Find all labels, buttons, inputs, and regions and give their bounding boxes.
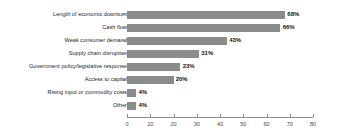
x-axis-tick-label: 60: [257, 120, 277, 128]
category-label: Access to capital: [0, 75, 127, 84]
x-axis-line: [127, 117, 313, 118]
horizontal-bar-chart: Length of economic downturn 68% Cash flo…: [0, 0, 339, 140]
category-tick-icon: [122, 92, 126, 93]
x-axis-tick: [267, 114, 268, 117]
bar-value-label: 66%: [283, 23, 295, 32]
category-tick-icon: [122, 14, 126, 15]
category-tick-icon: [122, 66, 126, 67]
x-axis-tick-label: 40: [210, 120, 230, 128]
category-tick-icon: [122, 105, 126, 106]
x-axis-tick-label: 80: [303, 120, 323, 128]
category-label: Weak consumer demand: [0, 36, 127, 45]
chart-row: Cash flow 66%: [0, 23, 339, 36]
bar: [127, 76, 174, 84]
bar: [127, 37, 227, 45]
category-label: Supply chain disruption: [0, 49, 127, 58]
x-axis-tick-label: 50: [233, 120, 253, 128]
bar-value-label: 68%: [287, 10, 299, 19]
chart-row: Other 4%: [0, 101, 339, 114]
x-axis-tick: [313, 114, 314, 117]
x-axis-tick-label: 10: [140, 120, 160, 128]
x-axis-tick: [220, 114, 221, 117]
x-axis-tick-label: 30: [187, 120, 207, 128]
x-axis-tick: [243, 114, 244, 117]
bar: [127, 50, 199, 58]
bar: [127, 102, 136, 110]
category-tick-icon: [122, 53, 126, 54]
bar: [127, 63, 180, 71]
bar-value-label: 43%: [229, 36, 241, 45]
x-axis-tick: [197, 114, 198, 117]
category-tick-icon: [122, 79, 126, 80]
bar-value-label: 20%: [176, 75, 188, 84]
bar: [127, 11, 285, 19]
bar: [127, 24, 280, 32]
chart-row: Weak consumer demand 43%: [0, 36, 339, 49]
category-tick-icon: [122, 27, 126, 28]
bar-value-label: 31%: [201, 49, 213, 58]
chart-row: Government policy/legislative response 2…: [0, 62, 339, 75]
category-label: Rising input or commodity costs: [0, 88, 127, 97]
chart-row: Length of economic downturn 68%: [0, 10, 339, 23]
chart-row: Access to capital 20%: [0, 75, 339, 88]
bar-value-label: 4%: [139, 101, 148, 110]
x-axis-tick: [127, 114, 128, 117]
x-axis-tick: [174, 114, 175, 117]
chart-row: Supply chain disruption 31%: [0, 49, 339, 62]
x-axis-tick: [290, 114, 291, 117]
category-label: Other: [0, 101, 127, 110]
bar-value-label: 4%: [139, 88, 148, 97]
bar: [127, 89, 136, 97]
x-axis-tick-label: 70: [280, 120, 300, 128]
category-label: Government policy/legislative response: [0, 62, 127, 71]
category-tick-icon: [122, 40, 126, 41]
chart-row: Rising input or commodity costs 4%: [0, 88, 339, 101]
x-axis-tick-label: 0: [117, 120, 137, 128]
bar-value-label: 23%: [183, 62, 195, 71]
category-label: Length of economic downturn: [0, 10, 127, 19]
x-axis-tick-label: 20: [164, 120, 184, 128]
x-axis-tick: [150, 114, 151, 117]
category-label: Cash flow: [0, 23, 127, 32]
